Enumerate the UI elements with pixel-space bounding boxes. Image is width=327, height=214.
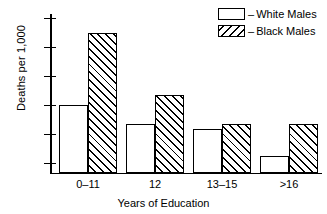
legend: – White Males – Black Males	[218, 6, 317, 40]
legend-swatch-hatched-box-icon	[218, 25, 245, 37]
legend-dash-black: –	[245, 26, 256, 37]
bar-black-gt16	[289, 124, 318, 173]
legend-label-black-males: Black Males	[256, 26, 315, 37]
bar-white-12	[126, 124, 155, 173]
bar-black-0-11	[88, 33, 117, 173]
bar-black-13-15	[222, 124, 251, 173]
y-axis-line	[50, 14, 52, 174]
x-tick-label-12: 12	[120, 178, 190, 190]
y-axis-title: Deaths per 1,000	[15, 0, 27, 143]
legend-dash-white: –	[245, 9, 256, 20]
legend-swatch-open-box-icon	[218, 8, 245, 20]
legend-item-black-males: – Black Males	[218, 23, 317, 39]
x-tick-label-gt16: >16	[254, 178, 324, 190]
bar-white-gt16	[260, 156, 289, 173]
bar-black-12	[155, 95, 184, 173]
legend-item-white-males: – White Males	[218, 6, 317, 22]
bar-white-0-11	[59, 105, 88, 174]
legend-label-white-males: White Males	[256, 9, 317, 20]
x-axis-title: Years of Education	[0, 197, 327, 209]
bar-white-13-15	[193, 129, 222, 173]
x-tick-label-13-15: 13–15	[187, 178, 257, 190]
bar-chart: Deaths per 1,000 16 13 10 7 4 1 0–11 12 …	[0, 0, 327, 214]
x-tick-label-0-11: 0–11	[53, 178, 123, 190]
